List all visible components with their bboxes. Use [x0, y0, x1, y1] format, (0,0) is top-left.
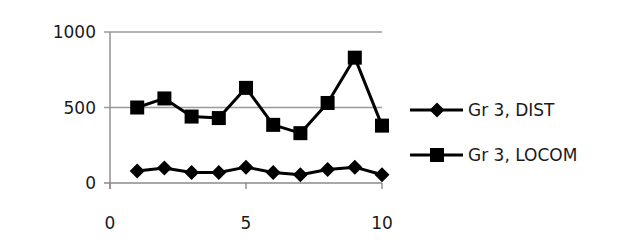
data-point [321, 96, 335, 110]
data-point [293, 167, 308, 182]
data-point [266, 165, 281, 180]
y-tick-label: 0 [85, 173, 96, 193]
legend: Gr 3, DISTGr 3, LOCOM [410, 100, 577, 165]
y-tick-label: 500 [64, 98, 96, 118]
data-point [157, 160, 172, 175]
data-point [130, 163, 145, 178]
data-point [185, 110, 199, 124]
series-gr-3-locom [130, 51, 389, 141]
square-icon [430, 148, 444, 162]
plot-series [130, 51, 390, 183]
x-axis-tick-labels: 0510 [105, 213, 393, 233]
data-point [130, 101, 144, 115]
data-point [375, 167, 390, 182]
line-chart: 05001000 0510 Gr 3, DISTGr 3, LOCOM [0, 0, 640, 252]
data-point [157, 91, 171, 105]
legend-label: Gr 3, DIST [468, 100, 555, 120]
data-point [266, 118, 280, 132]
data-point [348, 51, 362, 65]
y-tick-label: 1000 [53, 22, 96, 42]
data-point [184, 165, 199, 180]
data-point [293, 126, 307, 140]
legend-label: Gr 3, LOCOM [468, 145, 577, 165]
data-point [347, 160, 362, 175]
data-point [320, 162, 335, 177]
series-gr-3-dist [130, 160, 390, 183]
data-point [375, 119, 389, 133]
legend-item: Gr 3, LOCOM [410, 145, 577, 165]
chart-canvas: 05001000 0510 Gr 3, DISTGr 3, LOCOM [0, 0, 640, 252]
legend-item: Gr 3, DIST [410, 100, 555, 120]
diamond-icon [430, 103, 445, 118]
x-tick-label: 10 [371, 213, 393, 233]
data-point [239, 81, 253, 95]
data-point [239, 160, 254, 175]
series-line [137, 167, 382, 175]
y-axis-tick-labels: 05001000 [53, 22, 96, 193]
data-point [211, 165, 226, 180]
gridlines [104, 32, 382, 183]
data-point [212, 111, 226, 125]
x-tick-label: 0 [105, 213, 116, 233]
x-tick-label: 5 [241, 213, 252, 233]
series-line [137, 58, 382, 134]
